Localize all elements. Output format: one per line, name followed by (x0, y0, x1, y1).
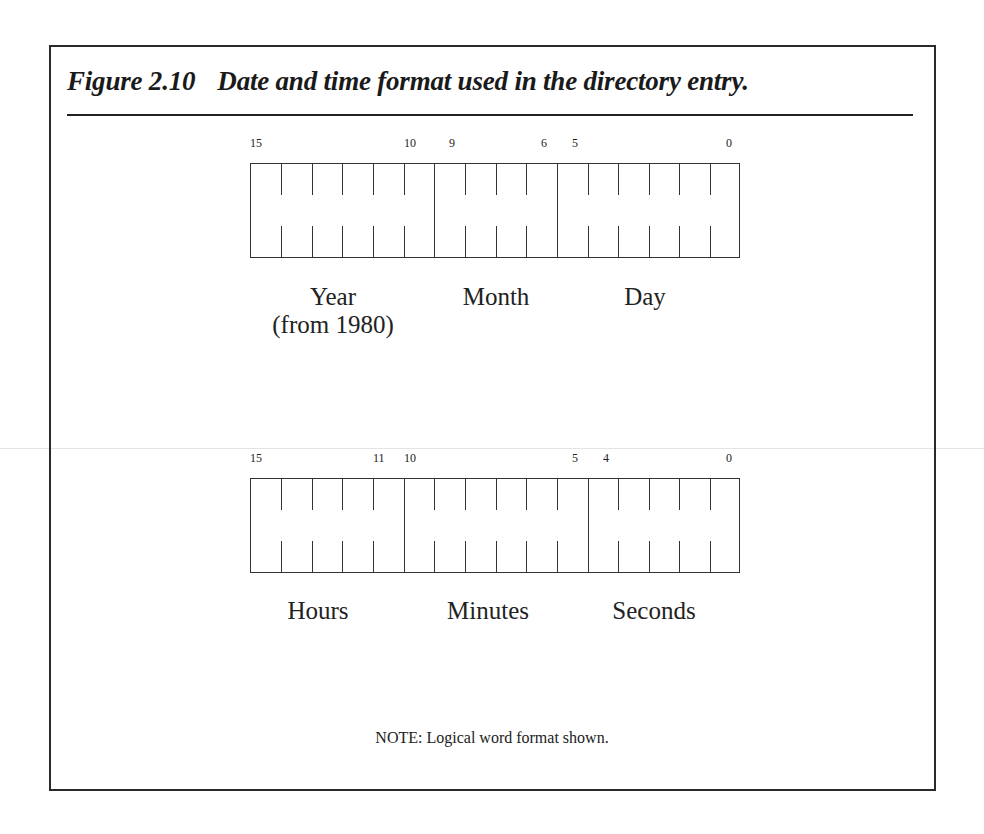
month-day-divider (557, 164, 558, 257)
bit-label-0: 0 (726, 452, 732, 464)
minutes-seconds-divider (588, 479, 589, 572)
bit-label-15: 15 (250, 452, 262, 464)
title-rule (67, 114, 913, 116)
bit-label-10: 10 (404, 137, 416, 149)
time-register-box (250, 478, 740, 573)
figure-note: NOTE: Logical word format shown. (0, 729, 984, 747)
bit-label-5: 5 (572, 137, 578, 149)
figure-caption: Date and time format used in the directo… (217, 66, 748, 96)
figure-frame (49, 45, 936, 791)
field-label-day: Day (600, 283, 690, 311)
bit-label-15: 15 (250, 137, 262, 149)
field-label-hours: Hours (268, 597, 368, 625)
bit-label-5: 5 (572, 452, 578, 464)
figure-number: Figure 2.10 (67, 66, 195, 97)
bit-label-4: 4 (603, 452, 609, 464)
field-label-year: Year (from 1980) (264, 283, 402, 339)
bit-label-6: 6 (541, 137, 547, 149)
field-label-seconds: Seconds (596, 597, 712, 625)
year-sublabel: (from 1980) (264, 311, 402, 339)
hours-minutes-divider (404, 479, 405, 572)
figure-title: Figure 2.10Date and time format used in … (67, 66, 749, 97)
field-label-minutes: Minutes (428, 597, 548, 625)
field-label-month: Month (440, 283, 552, 311)
date-register-box (250, 163, 740, 258)
bit-label-10: 10 (404, 452, 416, 464)
bit-label-0: 0 (726, 137, 732, 149)
bit-label-9: 9 (449, 137, 455, 149)
year-month-divider (434, 164, 435, 257)
bit-label-11: 11 (373, 452, 385, 464)
